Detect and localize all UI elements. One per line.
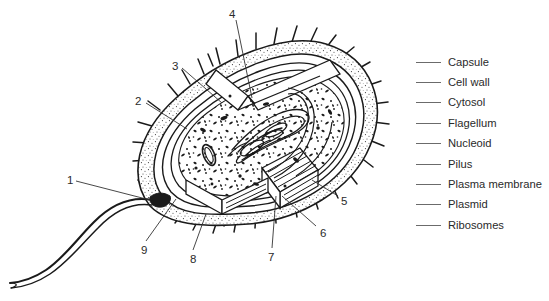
legend-rule-icon — [416, 82, 441, 83]
legend-label-flagellum: Flagellum — [448, 118, 497, 129]
legend-rule-icon — [416, 164, 441, 165]
legend-item-ribosomes: Ribosomes — [416, 215, 549, 235]
legend-rule-icon — [416, 62, 441, 63]
legend-item-nucleoid: Nucleoid — [416, 134, 549, 154]
legend-rule-icon — [416, 123, 441, 124]
legend-label-pilus: Pilus — [448, 159, 472, 170]
legend-item-flagellum: Flagellum — [416, 113, 549, 133]
legend-label-plasmid: Plasmid — [448, 199, 488, 210]
legend-item-capsule: Capsule — [416, 52, 549, 72]
legend-item-cell-wall: Cell wall — [416, 72, 549, 92]
figure-canvas: 1 2 3 4 5 6 7 8 9 Capsule Cell wall Cyto… — [0, 0, 549, 301]
legend-label-nucleoid: Nucleoid — [448, 138, 492, 149]
callout-5: 5 — [341, 196, 347, 208]
callout-2: 2 — [135, 96, 141, 108]
legend-label-ribosomes: Ribosomes — [448, 220, 504, 231]
legend-rule-icon — [416, 204, 441, 205]
legend-item-cytosol: Cytosol — [416, 93, 549, 113]
legend-rule-icon — [416, 225, 441, 226]
callout-6: 6 — [320, 228, 326, 240]
legend-label-capsule: Capsule — [448, 57, 489, 68]
legend-rule-icon — [416, 143, 441, 144]
callout-4: 4 — [229, 9, 235, 21]
legend-label-cell-wall: Cell wall — [448, 77, 490, 88]
legend-label-plasma-membrane: Plasma membrane — [448, 179, 542, 190]
legend-rule-icon — [416, 184, 441, 185]
callout-1: 1 — [67, 175, 73, 187]
legend-item-plasmid: Plasmid — [416, 195, 549, 215]
legend-rule-icon — [416, 102, 441, 103]
legend-item-plasma-membrane: Plasma membrane — [416, 174, 549, 194]
callout-9: 9 — [141, 245, 147, 257]
callout-3: 3 — [172, 61, 178, 73]
callout-7: 7 — [268, 252, 274, 264]
callout-8: 8 — [190, 254, 196, 266]
legend: Capsule Cell wall Cytosol Flagellum Nucl… — [416, 52, 549, 236]
legend-item-pilus: Pilus — [416, 154, 549, 174]
legend-label-cytosol: Cytosol — [448, 97, 485, 108]
